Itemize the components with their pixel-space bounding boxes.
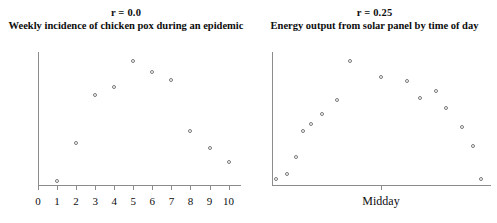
data-point [479, 177, 483, 181]
x-tick-label: 1 [54, 195, 60, 207]
left-title-block: r = 0.0 Weekly incidence of chicken pox … [0, 6, 252, 33]
data-point [74, 141, 78, 145]
left-correlation-label: r = 0.0 [0, 6, 252, 19]
data-point [405, 79, 409, 83]
x-tick-label: 8 [188, 195, 194, 207]
x-tick [95, 186, 96, 190]
panel-solar-output: r = 0.25 Energy output from solar panel … [252, 0, 497, 223]
data-point [444, 106, 448, 110]
x-tick [38, 186, 39, 190]
x-tick [152, 186, 153, 190]
x-tick [229, 186, 230, 190]
right-chart-subtitle: Energy output from solar panel by time o… [252, 19, 497, 33]
data-point [348, 59, 352, 63]
data-point [169, 78, 173, 82]
data-point [301, 129, 305, 133]
x-tick-label: 0 [35, 195, 41, 207]
data-point [418, 96, 422, 100]
data-point [112, 85, 116, 89]
right-x-axis-caption: Midday [362, 194, 399, 209]
x-tick-label: 6 [150, 195, 156, 207]
data-point [93, 93, 97, 97]
data-point [460, 125, 464, 129]
x-tick-label: 7 [169, 195, 175, 207]
left-y-axis [38, 52, 39, 186]
x-tick-label: 2 [73, 195, 79, 207]
right-y-axis [272, 52, 273, 186]
left-plot-area: 012345678910 [38, 52, 240, 186]
right-correlation-label: r = 0.25 [252, 6, 497, 19]
x-tick [381, 186, 382, 190]
data-point [274, 177, 278, 181]
data-point [285, 172, 289, 176]
x-tick [133, 186, 134, 190]
x-tick-label: 10 [223, 195, 234, 207]
left-x-axis [38, 185, 241, 186]
x-tick [210, 186, 211, 190]
data-point [320, 112, 324, 116]
x-tick [76, 186, 77, 190]
data-point [208, 146, 212, 150]
right-plot-area: Midday [272, 52, 490, 186]
data-point [227, 160, 231, 164]
left-chart-subtitle: Weekly incidence of chicken pox during a… [0, 19, 252, 33]
x-tick-label: 5 [131, 195, 137, 207]
x-tick-label: 9 [207, 195, 213, 207]
x-tick [57, 186, 58, 190]
x-tick [171, 186, 172, 190]
scatterplot-figure: r = 0.0 Weekly incidence of chicken pox … [0, 0, 497, 223]
data-point [309, 122, 313, 126]
panel-chicken-pox: r = 0.0 Weekly incidence of chicken pox … [0, 0, 252, 223]
data-point [434, 89, 438, 93]
data-point [131, 59, 135, 63]
x-tick [190, 186, 191, 190]
data-point [294, 155, 298, 159]
right-title-block: r = 0.25 Energy output from solar panel … [252, 6, 497, 33]
x-tick-label: 3 [92, 195, 98, 207]
data-point [150, 70, 154, 74]
x-tick-label: 4 [111, 195, 117, 207]
data-point [55, 179, 59, 183]
data-point [335, 98, 339, 102]
x-tick [114, 186, 115, 190]
data-point [471, 144, 475, 148]
data-point [188, 129, 192, 133]
data-point [379, 75, 383, 79]
